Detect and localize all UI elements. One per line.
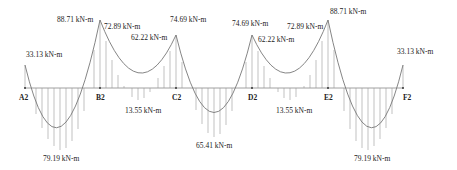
support-label-a2: A2: [19, 93, 28, 102]
support-label-c2: C2: [172, 93, 181, 102]
support-a2-marker: [24, 87, 26, 89]
moment-label-c2: 74.69 kN-m: [170, 15, 206, 24]
support-e2-marker: [327, 87, 329, 89]
support-b2-marker: [99, 87, 101, 89]
moment-label-a2: 33.13 kN-m: [26, 50, 62, 59]
hatch-lines: [25, 20, 403, 150]
moment-label-b2-right: 72.89 kN-m: [104, 22, 140, 31]
moment-label-e2-left: 72.89 kN-m: [287, 22, 323, 31]
support-c2-marker: [175, 87, 177, 89]
sagging-label-span3: 65.41 kN-m: [196, 141, 232, 150]
sagging-label-span1: 79.19 kN-m: [43, 154, 79, 163]
moment-label-f2: 33.13 kN-m: [397, 47, 433, 56]
support-label-f2: F2: [403, 93, 412, 102]
sagging-label-span4: 13.55 kN-m: [276, 106, 312, 115]
moment-label-b2: 88.71 kN-m: [57, 15, 93, 24]
moment-label-c2-left: 62.22 kN-m: [131, 33, 167, 42]
support-label-b2: B2: [96, 93, 105, 102]
support-d2-marker: [251, 87, 253, 89]
sagging-label-span5: 79.19 kN-m: [354, 154, 390, 163]
support-label-e2: E2: [324, 93, 333, 102]
moment-label-e2: 88.71 kN-m: [330, 7, 366, 16]
moment-label-d2-right: 62.22 kN-m: [258, 35, 294, 44]
bending-moment-diagram: A2 B2 C2 D2 E2 F2 33.13 kN-m 88.71 kN-m …: [0, 0, 457, 170]
support-label-d2: D2: [248, 93, 257, 102]
moment-label-d2: 74.69 kN-m: [232, 19, 268, 28]
sagging-label-span2: 13.55 kN-m: [125, 106, 161, 115]
support-f2-marker: [402, 87, 404, 89]
